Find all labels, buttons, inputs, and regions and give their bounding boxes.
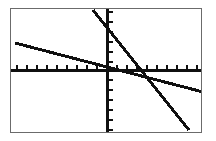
- calculator-screenshot: [0, 0, 216, 141]
- calculator-screen-frame: [10, 8, 202, 133]
- graph-plot-area: [11, 9, 202, 133]
